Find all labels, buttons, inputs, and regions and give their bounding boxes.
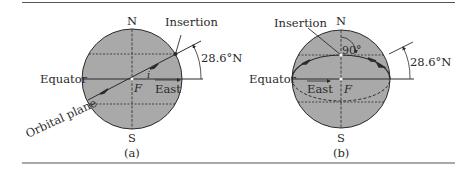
orbital-plane-label: Orbital plane (23, 95, 99, 140)
focus-label: F (133, 81, 143, 95)
panel-b: N Insertion 90° 28.6°N Equator East F S … (249, 14, 451, 160)
caption-a: (a) (124, 146, 140, 160)
latitude-label: 28.6°N (410, 55, 451, 69)
east-label: East (307, 82, 333, 96)
insertion-label: Insertion (165, 15, 218, 29)
north-label: N (336, 14, 346, 28)
east-label: East (155, 82, 181, 96)
latitude-extension-line (389, 42, 413, 54)
latitude-angle-arc (403, 47, 410, 79)
latitude-angle-arc (193, 45, 201, 79)
insertion-label: Insertion (274, 16, 327, 30)
insertion-leader (176, 35, 182, 54)
caption-b: (b) (333, 146, 349, 160)
south-label: S (128, 131, 136, 145)
latitude-label: 28.6°N (201, 51, 242, 65)
equator-label: Equator (40, 72, 88, 86)
equator-label: Equator (249, 72, 297, 86)
orbit-diagram: N Insertion 28.6°N Equator F East i Orbi… (0, 0, 468, 174)
focus-point (339, 77, 342, 80)
south-label: S (337, 131, 345, 145)
panel-a: N Insertion 28.6°N Equator F East i Orbi… (23, 14, 242, 160)
focus-label: F (343, 82, 353, 96)
inclination-label: i (147, 69, 150, 80)
angle-label: 90° (342, 44, 362, 57)
north-label: N (127, 14, 137, 28)
